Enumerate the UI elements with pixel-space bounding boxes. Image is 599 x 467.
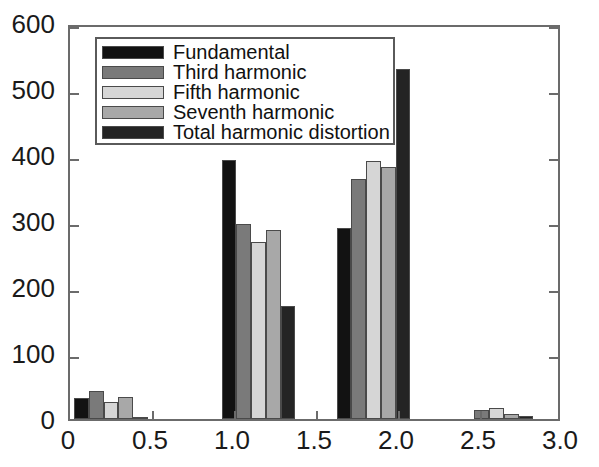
legend-swatch-third-harmonic [102,66,164,79]
legend-label-third-harmonic: Third harmonic [173,62,306,82]
y-axis-label-100: 100 [0,341,55,367]
y-tick-400 [70,159,79,161]
legend-label-seventh-harmonic: Seventh harmonic [173,102,334,122]
bar-total-harmonic-distortion-group-3 [396,69,411,419]
y-axis-label-500: 500 [0,77,55,103]
legend-swatch-seventh-harmonic [102,106,164,119]
legend-swatch-fifth-harmonic [102,86,164,99]
y-tick-right-100 [549,357,558,359]
y-axis-label-300: 300 [0,209,55,235]
legend-label-fifth-harmonic: Fifth harmonic [173,82,300,102]
x-tick-2.0 [398,411,400,419]
y-tick-right-600 [549,27,558,29]
y-axis-label-200: 200 [0,275,55,301]
x-tick-1.5 [316,411,318,419]
bar-fundamental-group-2 [222,160,237,419]
y-tick-right-300 [549,225,558,227]
bar-seventh-harmonic-group-4 [504,414,519,419]
legend-item-third-harmonic: Third harmonic [102,62,388,82]
y-tick-300 [70,225,79,227]
legend-swatch-total-harmonic-distortion [102,126,164,139]
x-axis-label-2.5: 2.5 [438,427,518,453]
legend-item-total-harmonic-distortion: Total harmonic distortion [102,122,388,142]
legend-swatch-fundamental [102,46,164,59]
bar-seventh-harmonic-group-3 [381,167,396,419]
bar-third-harmonic-group-3 [351,179,366,419]
bar-third-harmonic-group-2 [236,224,251,419]
y-tick-600 [70,27,79,29]
y-tick-right-200 [549,291,558,293]
bar-fifth-harmonic-group-3 [366,161,381,419]
bar-total-harmonic-distortion-group-4 [519,416,534,419]
y-tick-right-400 [549,159,558,161]
x-tick-0.5 [152,411,154,419]
legend-label-fundamental: Fundamental [173,42,290,62]
legend-item-fundamental: Fundamental [102,42,388,62]
chart-figure: 0100200300400500600 00.51.01.52.02.53.0 … [0,0,599,467]
y-axis-label-400: 400 [0,143,55,169]
bar-third-harmonic-group-1 [89,391,104,419]
bar-fifth-harmonic-group-1 [104,402,119,419]
y-tick-right-500 [549,93,558,95]
bar-fundamental-group-1 [74,398,89,419]
y-tick-500 [70,93,79,95]
x-axis-label-3.0: 3.0 [520,427,599,453]
legend-item-seventh-harmonic: Seventh harmonic [102,102,388,122]
bar-seventh-harmonic-group-1 [118,397,133,419]
bar-total-harmonic-distortion-group-2 [281,306,296,419]
x-axis-label-1.5: 1.5 [274,427,354,453]
x-axis-label-0.5: 0.5 [110,427,190,453]
x-tick-1.0 [234,411,236,419]
chart-legend: Fundamental Third harmonic Fifth harmoni… [95,37,395,145]
legend-label-total-harmonic-distortion: Total harmonic distortion [173,122,390,142]
x-axis-label-2.0: 2.0 [356,427,436,453]
legend-item-fifth-harmonic: Fifth harmonic [102,82,388,102]
bar-fundamental-group-3 [337,228,352,419]
bar-fifth-harmonic-group-2 [251,242,266,419]
x-tick-2.5 [480,411,482,419]
x-axis-label-0: 0 [28,427,108,453]
y-axis-label-600: 600 [0,11,55,37]
y-tick-100 [70,357,79,359]
y-tick-200 [70,291,79,293]
bar-seventh-harmonic-group-2 [266,230,281,419]
x-axis-label-1.0: 1.0 [192,427,272,453]
bar-fifth-harmonic-group-4 [489,408,504,419]
bar-total-harmonic-distortion-group-1 [133,417,148,419]
